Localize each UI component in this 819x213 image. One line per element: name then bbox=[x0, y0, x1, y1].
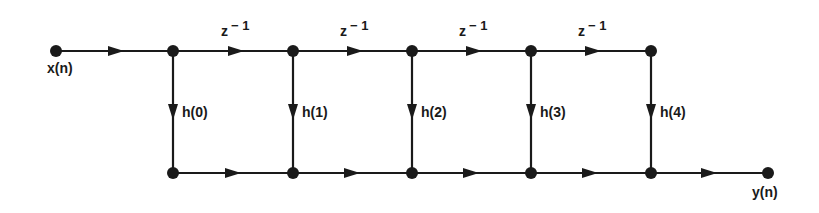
sum-node-1 bbox=[287, 167, 299, 179]
tap-node-4 bbox=[645, 45, 657, 57]
delay-label-1: z− 1 bbox=[221, 22, 249, 40]
arrow-right-icon bbox=[225, 168, 241, 178]
sum-node-4 bbox=[645, 167, 657, 179]
sum-node-0 bbox=[167, 167, 179, 179]
delay-exponent: − 1 bbox=[469, 18, 487, 33]
arrow-down-icon bbox=[407, 104, 417, 120]
arrow-down-icon bbox=[168, 104, 178, 120]
input-label: x(n) bbox=[47, 60, 73, 76]
arrow-right-icon bbox=[344, 168, 360, 178]
delay-label-4: z− 1 bbox=[578, 22, 606, 40]
coefficient-label-4: h(4) bbox=[660, 104, 686, 120]
coefficient-label-3: h(3) bbox=[540, 104, 566, 120]
delay-exponent: − 1 bbox=[588, 18, 606, 33]
delay-base: z bbox=[340, 23, 347, 39]
delay-base: z bbox=[578, 23, 585, 39]
tap-node-3 bbox=[525, 45, 537, 57]
coefficient-label-0: h(0) bbox=[182, 104, 208, 120]
fir-signal-flow-graph bbox=[0, 0, 819, 213]
arrow-right-icon bbox=[108, 46, 124, 56]
arrow-right-icon bbox=[582, 168, 598, 178]
tap-node-0 bbox=[167, 45, 179, 57]
delay-label-3: z− 1 bbox=[459, 22, 487, 40]
arrow-right-icon bbox=[466, 46, 482, 56]
arrow-right-icon bbox=[228, 46, 244, 56]
delay-exponent: − 1 bbox=[231, 18, 249, 33]
output-label: y(n) bbox=[752, 184, 778, 200]
arrow-right-icon bbox=[463, 168, 479, 178]
arrow-down-icon bbox=[646, 104, 656, 120]
arrow-right-icon bbox=[585, 46, 601, 56]
arrow-down-icon bbox=[288, 104, 298, 120]
tap-node-2 bbox=[406, 45, 418, 57]
tap-node-1 bbox=[287, 45, 299, 57]
arrow-right-icon bbox=[701, 168, 717, 178]
arrow-right-icon bbox=[347, 46, 363, 56]
coefficient-label-1: h(1) bbox=[302, 104, 328, 120]
delay-label-2: z− 1 bbox=[340, 22, 368, 40]
sum-node-3 bbox=[525, 167, 537, 179]
delay-exponent: − 1 bbox=[350, 18, 368, 33]
input-node bbox=[50, 45, 62, 57]
arrow-down-icon bbox=[526, 104, 536, 120]
output-node bbox=[762, 167, 774, 179]
delay-base: z bbox=[459, 23, 466, 39]
delay-base: z bbox=[221, 23, 228, 39]
coefficient-label-2: h(2) bbox=[421, 104, 447, 120]
sum-node-2 bbox=[406, 167, 418, 179]
